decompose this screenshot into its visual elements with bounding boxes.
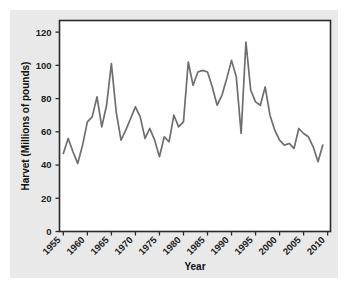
- y-tick-label: 120: [36, 27, 52, 38]
- x-tick-label: 1960: [64, 234, 87, 257]
- y-tick-label: 0: [46, 226, 51, 237]
- y-tick-label: 80: [41, 93, 52, 104]
- y-axis: 020406080100120: [36, 27, 60, 237]
- y-axis-title: Harvet (Millions of pounds): [20, 62, 31, 191]
- x-tick-label: 1955: [40, 234, 63, 257]
- line-chart: 020406080100120 195519601965197019751980…: [10, 10, 338, 278]
- x-tick-label: 1990: [208, 234, 231, 257]
- x-tick-label: 1975: [136, 234, 159, 257]
- x-axis-title: Year: [184, 261, 205, 272]
- plot-frame: [60, 21, 331, 232]
- x-tick-label: 1965: [88, 234, 111, 257]
- x-tick-label: 1970: [112, 234, 135, 257]
- x-tick-label: 1995: [232, 234, 255, 257]
- y-tick-label: 60: [41, 126, 52, 137]
- x-axis: 1955196019651970197519801985199019952000…: [40, 232, 328, 257]
- chart-figure: 020406080100120 195519601965197019751980…: [10, 10, 338, 278]
- y-tick-label: 100: [36, 60, 52, 71]
- x-tick-label: 2005: [280, 234, 303, 257]
- x-tick-label: 1980: [160, 234, 183, 257]
- x-tick-label: 2010: [304, 234, 327, 257]
- x-tick-label: 2000: [256, 234, 279, 257]
- y-tick-label: 40: [41, 159, 52, 170]
- y-tick-label: 20: [41, 193, 52, 204]
- x-tick-label: 1985: [184, 234, 207, 257]
